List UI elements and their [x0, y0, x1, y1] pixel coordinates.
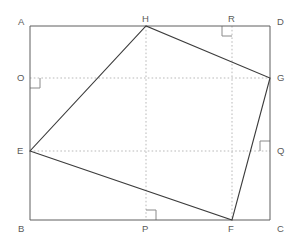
- right-angle-marks-group: [30, 26, 270, 220]
- vertex-label-C: C: [277, 224, 284, 234]
- quadrilateral-EFGH: [30, 26, 270, 220]
- vertex-label-D: D: [277, 17, 284, 27]
- right-angle-mark-Q: [260, 141, 270, 151]
- right-angle-mark-R: [222, 26, 232, 36]
- right-angle-mark-O: [30, 78, 40, 88]
- geometry-figure: A B C D E F G H O P Q R: [0, 0, 296, 247]
- vertex-label-E: E: [17, 146, 24, 156]
- vertex-label-A: A: [18, 17, 25, 27]
- foot-label-P: P: [142, 224, 149, 234]
- vertex-label-G: G: [277, 73, 285, 83]
- rectangle-ABCD: [30, 26, 270, 220]
- foot-label-O: O: [17, 73, 25, 83]
- foot-label-R: R: [228, 14, 235, 24]
- vertex-label-B: B: [18, 224, 25, 234]
- geometry-canvas: [0, 0, 296, 247]
- vertex-label-F: F: [228, 224, 234, 234]
- right-angle-mark-P: [146, 210, 156, 220]
- vertex-label-H: H: [142, 14, 149, 24]
- dotted-lines-group: [30, 26, 270, 220]
- foot-label-Q: Q: [277, 146, 285, 156]
